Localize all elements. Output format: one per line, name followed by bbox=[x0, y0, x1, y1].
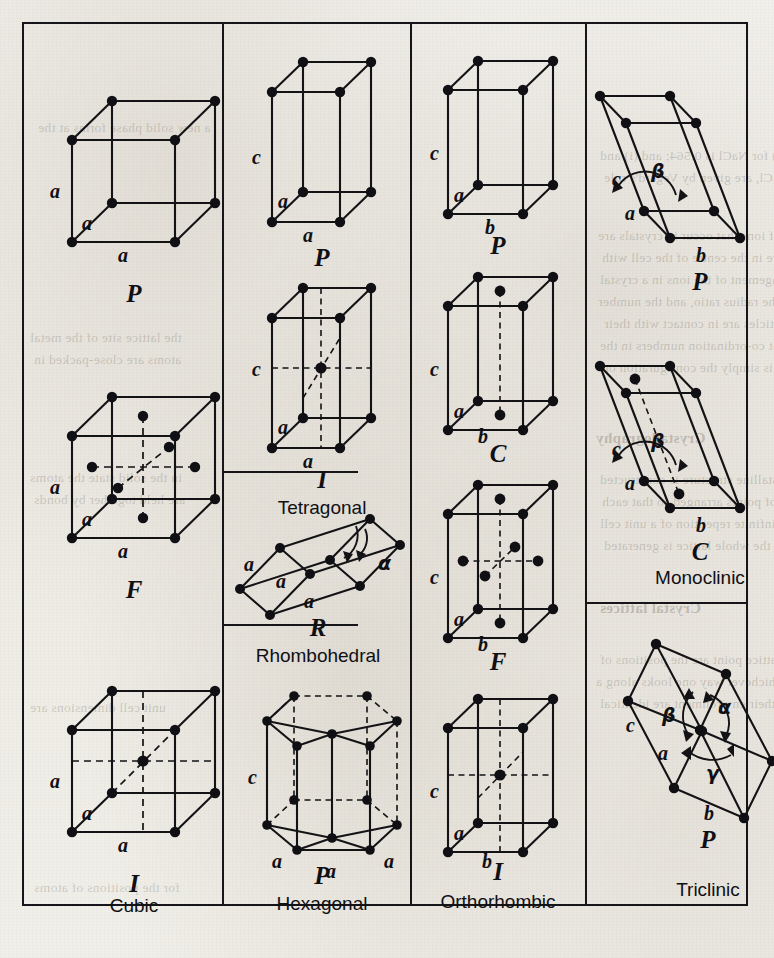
cubic-i-body-center bbox=[137, 755, 148, 766]
label-block-orthorhombic: I Orthorhombic bbox=[420, 858, 580, 922]
symbol-rhombohedral-r: R bbox=[309, 614, 327, 641]
edge-label-a: a bbox=[454, 822, 464, 844]
edge-label-a-vertical: a bbox=[50, 180, 60, 202]
angle-label-beta: β bbox=[661, 704, 676, 726]
edge-label-c: c bbox=[252, 358, 261, 380]
symbol-ortho-c: C bbox=[490, 440, 507, 467]
edge-label-a-vertical: a bbox=[50, 476, 60, 498]
cell-monoclinic-c: β c a b C Monoclinic bbox=[588, 338, 768, 578]
edge-label-c: c bbox=[430, 142, 439, 164]
edge-label-c: c bbox=[612, 168, 621, 190]
edge-label-a-depth: a bbox=[82, 212, 92, 234]
symbol-monoclinic-c: C bbox=[692, 538, 709, 565]
edge-label-a-horizontal: a bbox=[118, 834, 128, 856]
ortho-i-body-center bbox=[494, 769, 505, 780]
symbol-ortho-p: P bbox=[489, 232, 506, 259]
cubic-p-wireframe bbox=[72, 101, 215, 242]
edge-label-a: a bbox=[454, 608, 464, 630]
angle-label-gamma: γ bbox=[706, 762, 721, 784]
angle-label-alpha: α bbox=[718, 696, 732, 718]
cell-cubic-p: a a a P bbox=[30, 70, 220, 280]
edge-label-a: a bbox=[625, 472, 635, 494]
cell-ortho-c: c a b bbox=[420, 258, 580, 448]
family-name-cubic: Cubic bbox=[110, 895, 159, 916]
edge-label-a-left: a bbox=[244, 553, 254, 575]
cell-ortho-p: c a b bbox=[420, 42, 580, 232]
edge-label-a-depth: a bbox=[82, 508, 92, 530]
symbol-tetragonal-p: P bbox=[313, 244, 330, 271]
monoclinic-p-wireframe bbox=[600, 96, 740, 238]
cell-monoclinic-p: β c a b P bbox=[588, 68, 768, 288]
edge-label-a-bottom: a bbox=[304, 590, 314, 612]
edge-label-a: a bbox=[454, 400, 464, 422]
family-name-triclinic: Triclinic bbox=[676, 879, 740, 900]
edge-label-c: c bbox=[612, 438, 621, 460]
column-divider-3 bbox=[585, 24, 587, 904]
edge-label-a-depth: a bbox=[278, 190, 288, 212]
edge-label-b: b bbox=[696, 244, 706, 266]
edge-label-a-horizontal: a bbox=[118, 244, 128, 266]
cell-ortho-i: c a b bbox=[420, 680, 580, 870]
family-label-cubic: Cubic bbox=[30, 888, 220, 922]
edge-label-a: a bbox=[625, 202, 635, 224]
label-block-hexagonal: P Hexagonal bbox=[232, 862, 412, 926]
edge-label-c: c bbox=[430, 358, 439, 380]
edge-label-c: c bbox=[248, 766, 257, 788]
edge-label-a-depth: a bbox=[82, 802, 92, 824]
label-block-triclinic: Triclinic bbox=[596, 874, 774, 908]
cell-triclinic-p: β α γ c a b P bbox=[596, 618, 774, 848]
symbol-ortho-i: I bbox=[492, 858, 504, 885]
edge-label-b: b bbox=[696, 514, 706, 536]
cell-cubic-f: a a a F bbox=[30, 366, 220, 576]
edge-label-c: c bbox=[626, 714, 635, 736]
edge-label-c: c bbox=[430, 566, 439, 588]
tetragonal-i-body-center bbox=[315, 362, 326, 373]
angle-label-alpha: α bbox=[378, 552, 392, 574]
edge-label-c: c bbox=[430, 780, 439, 802]
hexagonal-p-front-edges bbox=[267, 696, 397, 850]
cell-hexagonal-p: c a a a bbox=[232, 678, 412, 858]
edge-label-a: a bbox=[454, 184, 464, 206]
edge-label-b: b bbox=[704, 802, 714, 824]
symbol-cubic-f: F bbox=[125, 576, 143, 603]
family-name-rhombohedral: Rhombohedral bbox=[256, 645, 381, 666]
cell-cubic-i: a a a I bbox=[30, 660, 220, 910]
symbol-cubic-p: P bbox=[125, 280, 142, 307]
family-name-orthorhombic: Orthorhombic bbox=[440, 891, 555, 912]
cell-tetragonal-p: c a a bbox=[240, 42, 410, 242]
symbol-holder-ortho-f: F bbox=[420, 644, 580, 680]
symbol-hexagonal-p: P bbox=[313, 862, 330, 889]
rhombohedral-r-wireframe bbox=[240, 519, 400, 615]
family-name-hexagonal: Hexagonal bbox=[277, 893, 368, 914]
edge-label-a-vertical: a bbox=[50, 770, 60, 792]
cell-ortho-f: c a b bbox=[420, 466, 580, 656]
row-divider-monoclinic-triclinic bbox=[585, 602, 746, 604]
cell-rhombohedral-r: α a a a bbox=[222, 496, 417, 626]
symbol-monoclinic-p: P bbox=[691, 268, 708, 295]
edge-label-a: a bbox=[658, 742, 668, 764]
cell-tetragonal-i: c a a bbox=[240, 268, 410, 468]
edge-label-a-horizontal: a bbox=[118, 540, 128, 562]
edge-label-a-mid: a bbox=[276, 570, 286, 592]
symbol-ortho-f: F bbox=[489, 648, 507, 675]
symbol-tetragonal-i: I bbox=[316, 466, 328, 493]
angle-label-beta: β bbox=[650, 160, 665, 182]
angle-label-beta: β bbox=[650, 430, 665, 452]
edge-label-a-depth: a bbox=[278, 416, 288, 438]
edge-label-c: c bbox=[252, 146, 261, 168]
label-block-rhombohedral: R Rhombohedral bbox=[222, 614, 417, 678]
column-divider-1 bbox=[222, 24, 224, 904]
symbol-triclinic-p: P bbox=[699, 826, 716, 853]
monoclinic-c-wireframe bbox=[600, 366, 740, 508]
family-name-monoclinic: Monoclinic bbox=[655, 567, 745, 588]
